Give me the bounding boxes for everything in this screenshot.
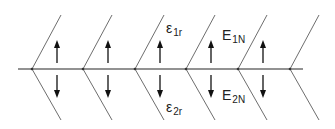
down-arrow-icon — [157, 90, 163, 98]
vertex-dot — [82, 68, 85, 71]
label-e-1n: E1N — [222, 28, 245, 42]
down-arrow-icon — [54, 90, 60, 98]
label-e-2n: E2N — [222, 88, 245, 102]
up-arrow-icon — [208, 40, 214, 48]
chevron-boundary — [135, 15, 164, 120]
up-arrow-icon — [105, 40, 111, 48]
chevron-boundary — [290, 15, 319, 120]
up-arrow-icon — [260, 40, 266, 48]
down-arrow-icon — [260, 90, 266, 98]
chevron-boundary — [32, 15, 61, 120]
label-epsilon-2r: ε2r — [166, 100, 182, 114]
vertex-dot — [185, 68, 188, 71]
vertex-dot — [31, 68, 34, 71]
vertex-dot — [134, 68, 137, 71]
vertex-dot — [289, 68, 292, 71]
vertex-dot — [237, 68, 240, 71]
down-arrow-icon — [208, 90, 214, 98]
down-arrow-icon — [105, 90, 111, 98]
chevron-boundary — [83, 15, 112, 120]
up-arrow-icon — [54, 40, 60, 48]
up-arrow-icon — [157, 40, 163, 48]
chevron-boundary — [186, 15, 215, 120]
label-epsilon-1r: ε1r — [166, 21, 182, 35]
